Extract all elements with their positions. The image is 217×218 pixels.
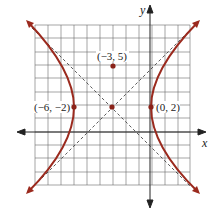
- hyperbola-graph: x y (−3, 5) (−6, −2) (0, 2): [0, 0, 217, 218]
- x-axis-arrow-left-icon: [17, 129, 25, 135]
- y-axis-arrow-up-icon: [147, 5, 153, 13]
- point-top: [110, 63, 115, 68]
- x-axis-label: x: [201, 136, 208, 150]
- points: [71, 63, 153, 109]
- point-left-vertex: [71, 104, 76, 109]
- label-top-point: (−3, 5): [97, 50, 127, 63]
- label-right-vertex: (0, 2): [156, 101, 180, 114]
- x-axis-arrow-right-icon: [198, 129, 206, 135]
- point-center: [109, 104, 114, 109]
- point-right-vertex: [148, 104, 153, 109]
- y-axis-arrow-down-icon: [147, 200, 153, 208]
- y-axis-label: y: [139, 3, 146, 17]
- label-left-vertex: (−6, −2): [34, 101, 71, 114]
